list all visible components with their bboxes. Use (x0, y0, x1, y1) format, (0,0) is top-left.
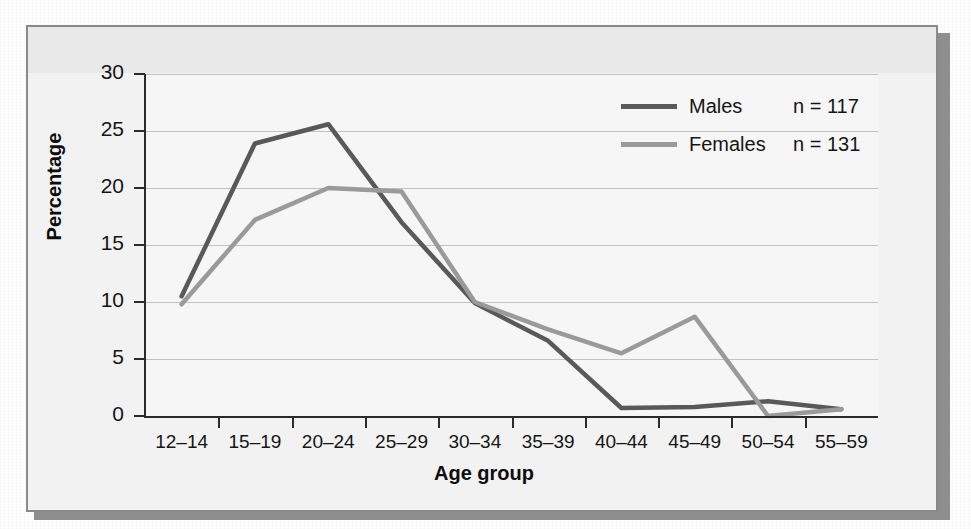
x-axis-tick-label: 30–34 (438, 431, 511, 453)
y-axis-tick-label: 5 (28, 345, 124, 369)
legend-item-females: Femalesn = 131 (621, 125, 860, 163)
x-axis-tick-label: 55–59 (805, 431, 878, 453)
y-axis-tick-label: 0 (28, 402, 124, 426)
y-axis-tick (134, 130, 145, 132)
x-axis-tick-label: 50–54 (731, 431, 804, 453)
legend-sample-size: n = 117 (793, 95, 859, 118)
x-axis-tick (805, 417, 807, 428)
x-axis-tick-label: 35–39 (512, 431, 585, 453)
figure-page: 051015202530 12–1415–1920–2425–2930–3435… (0, 0, 971, 529)
x-axis-tick (218, 417, 220, 428)
series-line-males (182, 124, 842, 409)
x-axis-tick-label: 15–19 (218, 431, 291, 453)
x-axis-tick (731, 417, 733, 428)
x-axis-tick-label: 12–14 (145, 431, 218, 453)
x-axis-tick-label: 45–49 (658, 431, 731, 453)
y-axis-title: Percentage (43, 77, 66, 297)
x-axis-tick (438, 417, 440, 428)
x-axis-tick (365, 417, 367, 428)
figure-box: 051015202530 12–1415–1920–2425–2930–3435… (26, 25, 938, 512)
y-axis-tick (134, 187, 145, 189)
series-line-females (182, 188, 842, 416)
x-axis-tick-label: 20–24 (292, 431, 365, 453)
y-axis-tick (134, 73, 145, 75)
x-axis-tick-label: 25–29 (365, 431, 438, 453)
legend-swatch-females (621, 142, 677, 147)
x-axis-tick (292, 417, 294, 428)
y-axis-tick (134, 301, 145, 303)
legend-sample-size: n = 131 (793, 133, 860, 156)
x-axis-title: Age group (28, 462, 938, 485)
x-axis-tick (512, 417, 514, 428)
chart-legend: Malesn = 117Femalesn = 131 (621, 87, 860, 163)
y-axis-tick (134, 244, 145, 246)
legend-swatch-males (621, 104, 677, 109)
x-axis-tick-label: 40–44 (585, 431, 658, 453)
x-axis-tick (658, 417, 660, 428)
line-chart: 051015202530 12–1415–1920–2425–2930–3435… (28, 27, 938, 512)
x-axis-tick (585, 417, 587, 428)
legend-label: Females (689, 133, 793, 156)
legend-label: Males (689, 95, 793, 118)
legend-item-males: Malesn = 117 (621, 87, 860, 125)
y-axis-tick (134, 415, 145, 417)
y-axis-tick (134, 358, 145, 360)
